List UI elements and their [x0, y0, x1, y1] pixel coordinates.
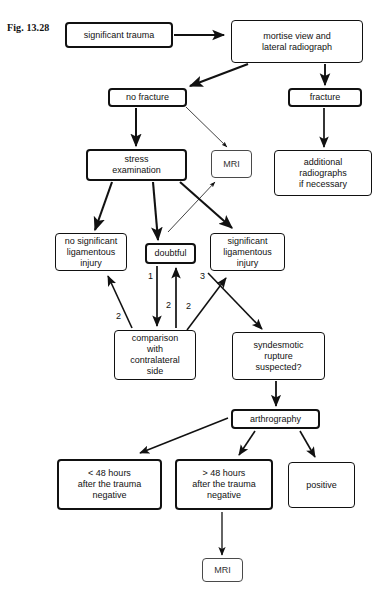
node-fracture[interactable]: fracture: [288, 88, 362, 107]
node-syndesmotic-rupture[interactable]: syndesmotic rupture suspected?: [232, 332, 325, 380]
node-label: additional radiographs if necessary: [299, 157, 347, 190]
edge-num-1: 1: [148, 271, 153, 281]
node-label: comparison with contralateral side: [130, 333, 180, 377]
node-significant-trauma[interactable]: significant trauma: [65, 22, 173, 48]
node-label: stress examination: [112, 154, 161, 176]
node-no-significant-injury[interactable]: no significant ligamentous injury: [55, 233, 127, 271]
edge-sig-to-syndesmotic: [208, 273, 262, 329]
edge-mortise-to-no-fracture: [190, 64, 248, 86]
node-label: mortise view and lateral radiograph: [262, 31, 332, 53]
node-label: no fracture: [126, 92, 169, 103]
node-stress-examination[interactable]: stress examination: [86, 149, 187, 181]
node-label: arthrography: [250, 414, 301, 425]
node-label: < 48 hours after the trauma negative: [78, 468, 142, 501]
node-label: MRI: [214, 565, 231, 576]
edge-stress-to-no-sig: [95, 182, 112, 230]
edge-num-2-right: 2: [186, 301, 191, 311]
edge-num-2-center: 2: [166, 300, 171, 310]
node-label: significant ligamentous injury: [223, 236, 272, 269]
node-label: no significant ligamentous injury: [65, 236, 118, 269]
node-arthrography[interactable]: arthrography: [231, 409, 320, 429]
node-label: positive: [306, 480, 337, 491]
edge-arthro-to-positive: [300, 431, 315, 457]
node-more-48-hours[interactable]: > 48 hours after the trauma negative: [175, 459, 273, 510]
node-positive[interactable]: positive: [288, 462, 355, 508]
edge-arthro-to-more48: [239, 431, 255, 455]
edge-stress-to-sig: [180, 182, 232, 228]
node-no-fracture[interactable]: no fracture: [108, 88, 187, 107]
node-comparison[interactable]: comparison with contralateral side: [114, 330, 196, 380]
edge-arthro-to-less48: [140, 418, 228, 453]
node-label: MRI: [223, 159, 240, 170]
node-mortise-view[interactable]: mortise view and lateral radiograph: [231, 20, 363, 63]
edge-num-3: 3: [200, 271, 205, 281]
node-less-48-hours[interactable]: < 48 hours after the trauma negative: [57, 459, 162, 510]
node-label: > 48 hours after the trauma negative: [192, 468, 256, 501]
edge-num-2-left: 2: [116, 311, 121, 321]
node-label: fracture: [310, 92, 341, 103]
node-mri-upper[interactable]: MRI: [211, 150, 252, 178]
edge-no-fracture-to-mri: [186, 107, 227, 147]
node-significant-injury[interactable]: significant ligamentous injury: [210, 233, 285, 271]
node-label: significant trauma: [84, 30, 155, 41]
figure-page: Fig. 13.28: [0, 0, 379, 602]
node-mri-lower[interactable]: MRI: [202, 558, 243, 582]
node-additional-radiographs[interactable]: additional radiographs if necessary: [274, 150, 372, 196]
edge-stress-to-doubtful: [153, 182, 158, 240]
node-doubtful[interactable]: doubtful: [145, 243, 196, 264]
node-label: doubtful: [154, 248, 186, 259]
node-label: syndesmotic rupture suspected?: [253, 340, 303, 373]
